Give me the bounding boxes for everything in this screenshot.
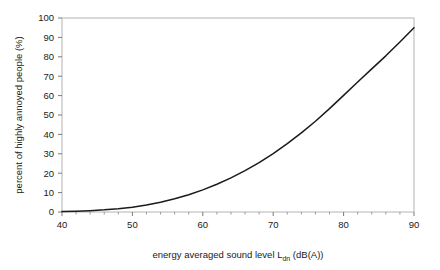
y-axis-title: percent of highly annoyed people (%) (13, 36, 24, 193)
x-tick-label: 80 (338, 219, 349, 230)
x-axis-title-subscript: dn (282, 255, 290, 262)
x-axis-title-main: energy averaged sound level L (153, 249, 283, 260)
y-tick-label: 0 (49, 206, 54, 217)
x-tick-label: 60 (198, 219, 209, 230)
x-axis-title: energy averaged sound level Ldn (dB(A)) (153, 249, 324, 262)
y-tick-label: 10 (43, 187, 54, 198)
y-tick-label: 60 (43, 90, 54, 101)
y-tick-label: 90 (43, 32, 54, 43)
y-tick-label: 50 (43, 109, 54, 120)
x-tick-label: 90 (409, 219, 420, 230)
x-tick-label: 70 (268, 219, 279, 230)
y-tick-label: 40 (43, 129, 54, 140)
x-axis-title-text: energy averaged sound level Ldn (dB(A)) (153, 249, 324, 262)
y-tick-label: 30 (43, 148, 54, 159)
y-tick-label: 80 (43, 51, 54, 62)
annoyance-dose-response-chart: 0102030405060708090100 405060708090 perc… (0, 0, 440, 270)
y-axis-title-text: percent of highly annoyed people (%) (13, 36, 24, 193)
y-tick-label: 100 (38, 12, 54, 23)
y-tick-label: 20 (43, 168, 54, 179)
chart-page: 0102030405060708090100 405060708090 perc… (0, 0, 440, 270)
x-tick-label: 50 (127, 219, 138, 230)
x-tick-label: 40 (57, 219, 68, 230)
y-tick-label: 70 (43, 71, 54, 82)
x-axis-title-tail: (dB(A)) (290, 249, 323, 260)
